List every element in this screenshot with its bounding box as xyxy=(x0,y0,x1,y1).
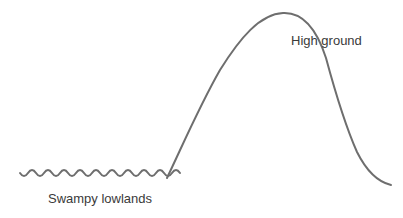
swampy-lowlands-label: Swampy lowlands xyxy=(48,192,152,205)
diagram-canvas: High ground Swampy lowlands xyxy=(0,0,403,218)
high-ground-label: High ground xyxy=(291,34,362,47)
swamp-wavy-line xyxy=(20,170,180,176)
